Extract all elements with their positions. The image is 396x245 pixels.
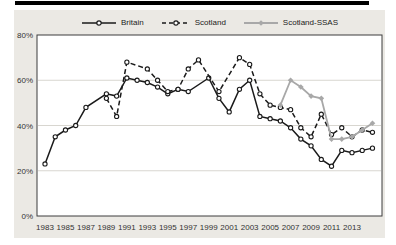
data-point-circle: [227, 110, 231, 114]
legend-label-scotland: Scotland: [195, 19, 226, 27]
x-axis-tick-label: 1991: [118, 223, 136, 232]
data-point-circle: [248, 78, 252, 82]
data-point-circle: [370, 146, 374, 150]
data-point-circle: [125, 76, 129, 80]
data-point-circle: [125, 60, 129, 64]
data-point-circle: [145, 80, 149, 84]
data-point-circle: [135, 78, 139, 82]
x-axis-tick-label: 1999: [200, 223, 218, 232]
data-point-circle: [145, 67, 149, 71]
x-axis-tick-label: 2009: [302, 223, 320, 232]
y-axis-tick-label: 0%: [21, 212, 33, 221]
data-point-circle: [84, 105, 88, 109]
data-point-circle: [217, 89, 221, 93]
x-axis-tick-label: 2005: [261, 223, 279, 232]
x-axis-tick-label: 1987: [77, 223, 95, 232]
data-point-circle: [104, 92, 108, 96]
x-axis-tick-label: 2013: [343, 223, 361, 232]
y-axis-tick-label: 40%: [17, 122, 33, 131]
data-point-circle: [217, 96, 221, 100]
data-point-circle: [53, 135, 57, 139]
data-point-circle: [258, 114, 262, 118]
data-point-circle: [268, 103, 272, 107]
data-point-circle: [319, 157, 323, 161]
data-point-circle: [115, 114, 119, 118]
data-point-circle: [186, 67, 190, 71]
chart-figure: 80%60%40%20%0%19831985198719891991199319…: [0, 0, 396, 245]
data-point-circle: [248, 62, 252, 66]
data-point-circle: [350, 151, 354, 155]
y-axis-tick-label: 20%: [17, 167, 33, 176]
legend-marker: [258, 20, 264, 26]
y-axis-tick-label: 80%: [17, 31, 33, 40]
x-axis-tick-label: 1997: [179, 223, 197, 232]
chart-legend: Britain Scotland Scotland-SSAS: [37, 16, 382, 30]
legend-marker: [174, 21, 178, 25]
data-point-circle: [289, 126, 293, 130]
x-axis-tick-label: 1995: [159, 223, 177, 232]
data-point-circle: [309, 144, 313, 148]
x-axis-tick-label: 1983: [36, 223, 54, 232]
data-point-circle: [309, 135, 313, 139]
data-point-circle: [268, 117, 272, 121]
x-axis-tick-label: 1985: [57, 223, 75, 232]
data-point-circle: [74, 123, 78, 127]
data-point-circle: [196, 58, 200, 62]
x-axis-tick-label: 1989: [98, 223, 116, 232]
data-point-circle: [278, 119, 282, 123]
data-point-circle: [155, 85, 159, 89]
y-axis-tick-label: 60%: [17, 76, 33, 85]
data-point-circle: [299, 126, 303, 130]
data-point-circle: [104, 96, 108, 100]
data-point-circle: [329, 164, 333, 168]
legend-item-scotland-ssas: Scotland-SSAS: [243, 18, 338, 28]
data-point-circle: [237, 87, 241, 91]
data-point-circle: [166, 89, 170, 93]
data-point-circle: [115, 94, 119, 98]
data-point-circle: [43, 162, 47, 166]
x-axis-tick-label: 2003: [241, 223, 259, 232]
data-point-circle: [319, 112, 323, 116]
x-axis-tick-label: 2007: [282, 223, 300, 232]
data-point-circle: [63, 128, 67, 132]
x-axis-tick-label: 2001: [220, 223, 238, 232]
x-axis-tick-label: 1993: [138, 223, 156, 232]
britain-line-sample-icon: [81, 18, 117, 28]
legend-label-britain: Britain: [121, 19, 144, 27]
data-point-circle: [299, 137, 303, 141]
legend-item-britain: Britain: [81, 18, 144, 28]
data-point-circle: [289, 108, 293, 112]
data-point-circle: [360, 148, 364, 152]
data-point-circle: [176, 87, 180, 91]
data-point-circle: [340, 148, 344, 152]
data-point-circle: [186, 89, 190, 93]
data-point-circle: [340, 126, 344, 130]
data-point-circle: [258, 92, 262, 96]
legend-marker: [97, 21, 101, 25]
legend-label-scotland-ssas: Scotland-SSAS: [283, 19, 338, 27]
data-point-circle: [155, 78, 159, 82]
data-point-circle: [237, 56, 241, 60]
line-chart: 80%60%40%20%0%19831985198719891991199319…: [0, 0, 396, 245]
data-point-circle: [370, 130, 374, 134]
x-axis-tick-label: 2011: [323, 223, 341, 232]
scotland-line-sample-icon: [161, 18, 191, 28]
legend-item-scotland: Scotland: [161, 18, 226, 28]
scotland-ssas-line-sample-icon: [243, 18, 279, 28]
